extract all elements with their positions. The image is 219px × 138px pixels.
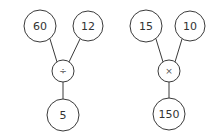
result-node-150: 150 xyxy=(153,98,185,130)
edge-12-to-divide xyxy=(69,39,80,62)
multiply-operator-node: × xyxy=(158,60,180,82)
result-node-5: 5 xyxy=(47,99,79,131)
node-label: 15 xyxy=(139,20,153,33)
edge-60-to-divide xyxy=(50,39,57,62)
node-label: 10 xyxy=(183,20,197,33)
division-tree: 60 12 ÷ 5 xyxy=(24,10,103,131)
multiply-icon: × xyxy=(165,66,173,76)
divide-icon: ÷ xyxy=(59,66,67,76)
edge-15-to-multiply xyxy=(156,39,163,62)
node-label: 5 xyxy=(60,109,67,122)
divide-operator-node: ÷ xyxy=(52,60,74,82)
input-node-10: 10 xyxy=(175,11,205,41)
edge-10-to-multiply xyxy=(175,39,182,62)
input-node-12: 12 xyxy=(73,11,103,41)
node-label: 150 xyxy=(159,108,180,121)
node-label: 60 xyxy=(33,20,47,33)
input-node-15: 15 xyxy=(130,10,162,42)
operation-trees-canvas: 60 12 ÷ 5 15 10 × xyxy=(0,0,219,138)
node-label: 12 xyxy=(81,20,95,33)
multiplication-tree: 15 10 × 150 xyxy=(130,10,205,130)
input-node-60: 60 xyxy=(24,10,56,42)
